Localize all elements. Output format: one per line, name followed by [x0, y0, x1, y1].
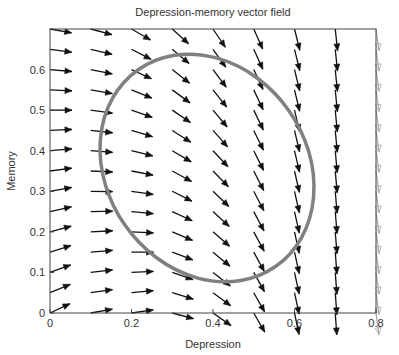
y-tick-label: 0.4	[30, 145, 45, 157]
vector-arrow	[132, 90, 152, 98]
vector-arrow	[333, 272, 339, 294]
vector-arrow	[295, 252, 301, 273]
vector-arrow	[172, 293, 193, 300]
vector-arrow	[172, 252, 193, 260]
vector-arrow	[295, 49, 302, 70]
vector-arrow	[334, 49, 340, 71]
vector-arrow	[334, 70, 340, 92]
vector-arrow	[254, 110, 264, 130]
vector-arrow	[50, 48, 72, 54]
vector-arrow	[91, 268, 113, 274]
vector-arrow	[132, 151, 153, 157]
vector-arrow	[91, 248, 113, 254]
vector-arrow	[50, 166, 72, 172]
y-tick-label: 0.6	[30, 64, 45, 76]
chart-title: Depression-memory vector field	[135, 6, 290, 18]
x-tick-label: 0.8	[368, 317, 383, 329]
vector-arrow	[132, 49, 152, 59]
trajectory-ellipse	[56, 12, 357, 323]
vector-arrows	[50, 29, 381, 335]
vector-arrow	[295, 29, 302, 50]
vector-arrow	[334, 191, 340, 213]
vector-arrow	[254, 130, 264, 150]
x-tick-label: 0.2	[124, 317, 139, 329]
vector-arrow	[213, 191, 229, 206]
vector-arrow	[334, 171, 340, 193]
vector-arrow	[91, 70, 113, 76]
vector-arrow	[172, 130, 191, 142]
vector-arrow	[91, 307, 113, 313]
vector-arrow	[334, 90, 340, 112]
x-axis-label: Depression	[185, 338, 241, 350]
vector-arrow	[91, 89, 113, 95]
vector-arrow	[50, 205, 71, 211]
vector-arrow	[50, 146, 72, 152]
vector-arrow	[254, 212, 264, 231]
vector-arrow	[50, 264, 71, 272]
vector-arrow	[172, 171, 191, 181]
vector-arrow	[172, 29, 188, 44]
vector-arrow	[295, 212, 301, 233]
vector-arrow	[213, 232, 230, 246]
y-tick-label: 0.3	[30, 185, 45, 197]
vector-arrow	[295, 272, 301, 293]
vector-arrow	[50, 225, 71, 232]
vector-arrow	[172, 191, 192, 201]
vector-arrow	[50, 304, 70, 313]
vector-arrow	[254, 232, 264, 251]
vector-arrow	[132, 288, 154, 294]
vector-arrow	[295, 191, 301, 212]
vector-arrow	[213, 151, 228, 167]
vector-arrow	[334, 29, 340, 51]
vector-arrow	[50, 245, 71, 252]
vector-arrow	[132, 230, 154, 236]
x-tick-label: 0.6	[287, 317, 302, 329]
vector-arrow	[50, 186, 72, 192]
vector-arrow	[254, 313, 265, 332]
vector-arrow	[254, 293, 265, 312]
vector-arrow	[295, 151, 301, 172]
x-tick-label: 0	[47, 317, 53, 329]
vector-field-chart: Depression-memory vector field 00.20.40.…	[0, 0, 399, 355]
vector-arrow	[295, 90, 301, 111]
vector-arrow	[132, 190, 154, 196]
vector-arrow	[91, 49, 112, 55]
vector-arrow	[172, 110, 190, 122]
vector-arrow	[334, 130, 340, 152]
y-axis-label: Memory	[5, 151, 17, 191]
vector-arrow	[254, 49, 263, 69]
vector-arrow	[334, 151, 340, 173]
vector-arrow	[333, 313, 339, 335]
vector-arrow	[132, 110, 153, 118]
vector-arrow	[91, 208, 113, 214]
vector-arrow	[213, 29, 225, 47]
vector-arrow	[254, 151, 264, 171]
vector-arrow	[132, 269, 154, 275]
vector-arrow	[172, 70, 189, 84]
vector-arrow	[132, 130, 153, 137]
vector-arrow	[213, 212, 229, 227]
vector-arrow	[50, 127, 72, 133]
vector-arrow	[334, 110, 340, 132]
x-tick-label: 0.4	[205, 317, 220, 329]
vector-arrow	[91, 29, 112, 36]
vector-arrow	[333, 212, 339, 234]
vector-arrow	[91, 228, 113, 234]
vector-arrow	[213, 130, 228, 146]
vector-arrow	[254, 191, 264, 211]
vector-arrow	[132, 29, 151, 40]
vector-arrow	[172, 212, 192, 221]
vector-arrow	[50, 29, 72, 35]
vector-arrow	[254, 29, 263, 49]
vector-arrow	[91, 109, 113, 115]
y-tick-label: 0.2	[30, 226, 45, 238]
vector-arrow	[213, 70, 226, 88]
vector-arrow	[91, 288, 113, 294]
vector-arrow	[50, 284, 70, 293]
vector-arrow	[254, 90, 263, 110]
vector-arrow	[213, 171, 228, 187]
vector-arrow	[213, 110, 227, 127]
vector-arrow	[213, 272, 230, 286]
y-tick-label: 0.1	[30, 266, 45, 278]
vector-arrow	[333, 252, 339, 274]
